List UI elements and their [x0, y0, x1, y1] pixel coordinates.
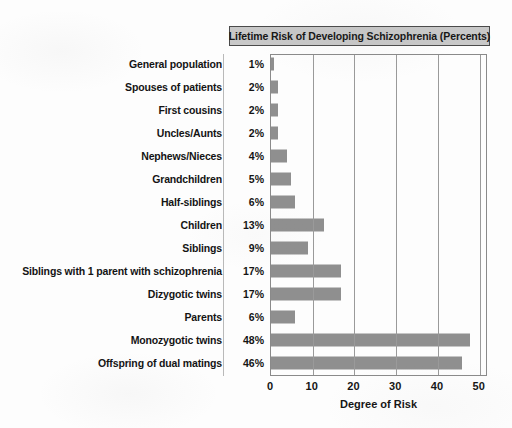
category-label: Half-siblings: [10, 196, 222, 208]
category-label: Monozygotic twins: [10, 334, 222, 346]
chart-title-banner: Lifetime Risk of Developing Schizophreni…: [229, 26, 490, 46]
schizophrenia-risk-chart: Lifetime Risk of Developing Schizophreni…: [0, 0, 512, 428]
category-label: Offspring of dual matings: [10, 357, 222, 369]
value-label: 5%: [228, 173, 264, 185]
value-label: 2%: [228, 104, 264, 116]
value-label: 6%: [228, 196, 264, 208]
x-tick-label: 40: [431, 380, 443, 392]
value-label: 2%: [228, 127, 264, 139]
gridline-10: [313, 55, 314, 375]
x-tick-label: 50: [473, 380, 485, 392]
gridline-20: [354, 55, 355, 375]
x-axis-title: Degree of Risk: [270, 398, 487, 410]
category-label: First cousins: [10, 104, 222, 116]
x-tick-label: 20: [347, 380, 359, 392]
value-label: 48%: [228, 334, 264, 346]
category-label: General population: [10, 58, 222, 70]
value-label: 46%: [228, 357, 264, 369]
category-label: Children: [10, 219, 222, 231]
category-label: Parents: [10, 311, 222, 323]
category-label: Siblings: [10, 242, 222, 254]
x-tick-label: 30: [389, 380, 401, 392]
x-tick-label: 0: [267, 380, 273, 392]
plot-area: [270, 54, 487, 376]
x-tick-label: 10: [306, 380, 318, 392]
value-label: 2%: [228, 81, 264, 93]
value-label: 17%: [228, 265, 264, 277]
category-label: Spouses of patients: [10, 81, 222, 93]
value-label: 13%: [228, 219, 264, 231]
gridline-30: [396, 55, 397, 375]
category-label: Grandchildren: [10, 173, 222, 185]
category-label: Siblings with 1 parent with schizophreni…: [10, 265, 222, 277]
value-label: 17%: [228, 288, 264, 300]
gridline-40: [438, 55, 439, 375]
category-label: Nephews/Nieces: [10, 150, 222, 162]
category-label: Uncles/Aunts: [10, 127, 222, 139]
value-label: 6%: [228, 311, 264, 323]
gridline-50: [480, 55, 481, 375]
chart-title: Lifetime Risk of Developing Schizophreni…: [229, 30, 490, 42]
value-label: 1%: [228, 58, 264, 70]
value-label: 9%: [228, 242, 264, 254]
category-label: Dizygotic twins: [10, 288, 222, 300]
value-label: 4%: [228, 150, 264, 162]
